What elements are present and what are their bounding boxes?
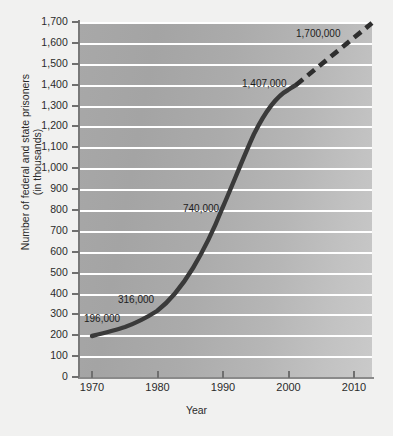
x-tick <box>157 371 159 378</box>
gridline <box>80 64 372 66</box>
gridline <box>80 273 372 275</box>
gridline <box>80 356 372 358</box>
gridline <box>80 126 372 128</box>
y-tick <box>72 167 79 169</box>
x-tick <box>353 371 355 378</box>
y-axis-title-line2: (in thousands) <box>31 129 43 196</box>
gridline <box>80 85 372 87</box>
x-tick <box>222 371 224 378</box>
x-tick-label: 1980 <box>145 381 169 393</box>
y-tick <box>72 334 79 336</box>
gridline <box>80 210 372 212</box>
x-tick <box>91 371 93 378</box>
annotation-1700000: 1,700,000 <box>296 28 341 39</box>
x-tick-label: 1970 <box>80 381 104 393</box>
y-tick <box>72 230 79 232</box>
y-tick <box>72 209 79 211</box>
y-tick <box>72 146 79 148</box>
gridline <box>80 168 372 170</box>
gridline <box>80 252 372 254</box>
y-tick-label: 0 <box>6 370 68 382</box>
prison-population-chart: 1,700 1,600 1,500 1,400 1,300 1,200 1,10… <box>0 0 393 436</box>
y-tick-label: 300 <box>6 307 68 319</box>
gridline <box>80 106 372 108</box>
y-tick <box>72 272 79 274</box>
gridline <box>80 231 372 233</box>
y-tick <box>72 251 79 253</box>
y-axis-spine <box>78 20 80 379</box>
y-axis-title-line1: Number of federal and state prisoners <box>19 74 31 250</box>
y-tick <box>72 84 79 86</box>
y-tick-label: 1,700 <box>6 15 68 27</box>
y-tick <box>72 105 79 107</box>
gridline <box>80 189 372 191</box>
x-axis-spine <box>78 377 374 379</box>
gridline <box>80 147 372 149</box>
y-tick <box>72 293 79 295</box>
gridline <box>80 314 372 316</box>
gridline <box>80 335 372 337</box>
plot-area <box>80 22 372 377</box>
y-tick <box>72 188 79 190</box>
annotation-196000: 196,000 <box>84 313 120 324</box>
gridline <box>80 22 372 24</box>
y-tick <box>72 125 79 127</box>
y-tick <box>72 376 79 378</box>
y-tick <box>72 63 79 65</box>
y-tick <box>72 21 79 23</box>
y-axis-title: Number of federal and state prisoners (i… <box>19 47 43 277</box>
x-axis-title: Year <box>0 404 393 416</box>
y-tick <box>72 355 79 357</box>
x-tick-label: 2000 <box>276 381 300 393</box>
y-tick-label: 400 <box>6 287 68 299</box>
annotation-1407000: 1,407,000 <box>242 78 287 89</box>
annotation-740000: 740,000 <box>183 203 219 214</box>
y-tick <box>72 42 79 44</box>
x-tick <box>288 371 290 378</box>
x-tick-label: 1990 <box>211 381 235 393</box>
annotation-316000: 316,000 <box>118 294 154 305</box>
gridline <box>80 43 372 45</box>
y-tick <box>72 313 79 315</box>
y-tick-label: 100 <box>6 349 68 361</box>
y-tick-label: 200 <box>6 328 68 340</box>
x-tick-label: 2010 <box>342 381 366 393</box>
